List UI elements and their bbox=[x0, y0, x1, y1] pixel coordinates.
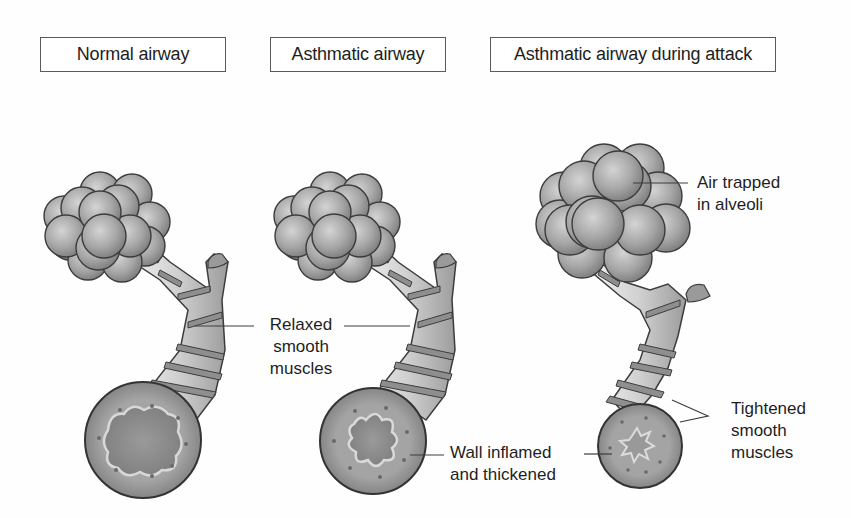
label-inflamed-line2: and thickened bbox=[450, 464, 556, 486]
label-relaxed-line3: muscles bbox=[261, 358, 341, 380]
label-tightened-smooth-muscles: Tightened smooth muscles bbox=[731, 398, 806, 464]
attack-airway bbox=[536, 144, 710, 488]
label-trapped-line1: Air trapped bbox=[697, 172, 780, 194]
label-wall-inflamed: Wall inflamed and thickened bbox=[450, 442, 556, 486]
label-relaxed-line1: Relaxed bbox=[261, 314, 341, 336]
airway-illustration bbox=[0, 0, 851, 518]
label-air-trapped: Air trapped in alveoli bbox=[697, 172, 780, 216]
label-inflamed-line1: Wall inflamed bbox=[450, 442, 556, 464]
label-tightened-line1: Tightened bbox=[731, 398, 806, 420]
normal-airway bbox=[44, 172, 228, 498]
label-relaxed-smooth-muscles: Relaxed smooth muscles bbox=[261, 314, 341, 380]
label-relaxed-line2: smooth bbox=[261, 336, 341, 358]
label-trapped-line2: in alveoli bbox=[697, 194, 780, 216]
label-tightened-line3: muscles bbox=[731, 442, 806, 464]
label-tightened-line2: smooth bbox=[731, 420, 806, 442]
